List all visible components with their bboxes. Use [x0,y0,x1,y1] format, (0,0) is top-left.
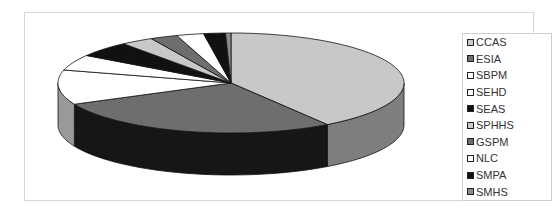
legend-label: SEHD [476,86,507,98]
legend-item: GSPM [463,134,551,151]
legend-label: ESIA [476,53,501,65]
legend-swatch-icon [467,72,474,79]
legend-item: SMHS [463,183,551,200]
legend-swatch-icon [467,39,474,46]
legend-item: SPHHS [463,117,551,134]
legend-item: SMPA [463,167,551,184]
legend-item: SEHD [463,84,551,101]
legend-item: CCAS [463,34,551,51]
legend-item: SBPM [463,67,551,84]
legend-swatch-icon [467,105,474,112]
legend-label: SMHS [476,186,508,198]
legend-swatch-icon [467,138,474,145]
legend-item: ESIA [463,51,551,68]
legend: CCASESIASBPMSEHDSEASSPHHSGSPMNLCSMPASMHS [462,33,552,201]
legend-label: SEAS [476,103,505,115]
legend-item: NLC [463,150,551,167]
legend-label: NLC [476,152,498,164]
legend-label: SMPA [476,169,506,181]
legend-swatch-icon [467,188,474,195]
legend-label: CCAS [476,36,507,48]
legend-swatch-icon [467,55,474,62]
legend-label: SPHHS [476,119,514,131]
pie-chart [25,13,455,200]
chart-area: CCASESIASBPMSEHDSEASSPHHSGSPMNLCSMPASMHS [24,12,534,201]
legend-label: SBPM [476,69,507,81]
legend-swatch-icon [467,122,474,129]
legend-item: SEAS [463,100,551,117]
legend-swatch-icon [467,172,474,179]
legend-swatch-icon [467,155,474,162]
legend-swatch-icon [467,89,474,96]
legend-label: GSPM [476,136,508,148]
